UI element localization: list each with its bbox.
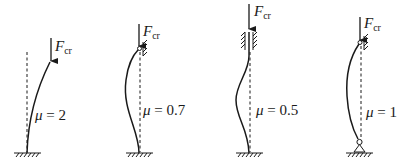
top-pin-icon	[358, 41, 362, 45]
pinned-ground-support	[346, 139, 373, 157]
top-pin-icon	[138, 47, 142, 51]
mu-label: μ = 2	[34, 107, 66, 123]
buckled-column	[236, 56, 249, 153]
top-roller-support	[364, 34, 368, 50]
panel-fixed-fixed: Fcr μ = 0.5	[236, 3, 298, 157]
buckling-diagram: Fcr μ = 2 Fcr μ = 0.7	[0, 0, 411, 166]
panel-fixed-pinned: Fcr μ = 0.7	[125, 23, 185, 157]
load-label: Fcr	[142, 23, 161, 41]
load-label: Fcr	[253, 3, 272, 21]
buckled-column	[125, 50, 139, 153]
fixed-ground-support	[126, 153, 153, 157]
mu-label: μ = 0.7	[142, 102, 186, 118]
fixed-ground-support	[236, 153, 263, 157]
mu-label: μ = 1	[365, 104, 397, 120]
top-roller-support	[143, 40, 147, 56]
load-label: Fcr	[54, 38, 73, 56]
fixed-ground-support	[14, 153, 41, 157]
load-label: Fcr	[363, 15, 382, 33]
panel-fixed-free: Fcr μ = 2	[14, 38, 73, 157]
mu-label: μ = 0.5	[255, 102, 298, 118]
panel-pinned-pinned: Fcr μ = 1	[346, 15, 397, 157]
buckled-column	[347, 44, 359, 139]
